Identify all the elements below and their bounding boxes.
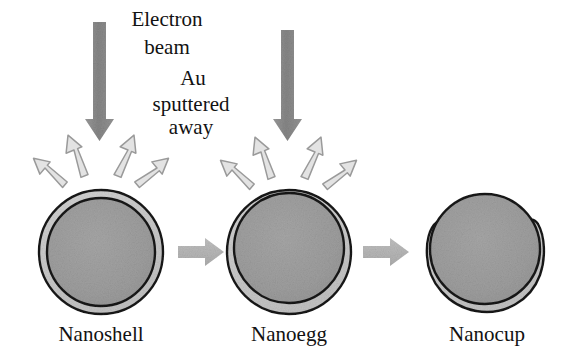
annotation-au-sputtered-away: Au sputtered away bbox=[153, 66, 230, 139]
figure-root: Electron beam Au sputtered away bbox=[0, 0, 584, 354]
electron-beam-label-line2: beam bbox=[144, 35, 189, 59]
particle-nanoshell: Nanoshell bbox=[39, 190, 163, 346]
sputter-arrow-icon bbox=[60, 132, 92, 179]
particle-label-nanocup: Nanocup bbox=[449, 322, 525, 346]
sputter-arrows-nanoegg bbox=[215, 134, 361, 193]
annotation-electron-beam: Electron beam bbox=[131, 7, 203, 59]
sputter-arrow-icon bbox=[28, 152, 70, 191]
diagram-canvas: Electron beam Au sputtered away bbox=[0, 0, 584, 354]
particle-label-nanoegg: Nanoegg bbox=[251, 322, 327, 346]
sputter-arrow-icon bbox=[297, 134, 329, 181]
sputter-arrow-icon bbox=[110, 132, 142, 179]
sputter-arrows-nanoshell bbox=[28, 132, 173, 191]
nanocup-core bbox=[430, 194, 540, 304]
particle-nanocup: Nanocup bbox=[427, 194, 544, 346]
sputter-arrow-icon bbox=[320, 154, 362, 193]
transition-arrow-1 bbox=[178, 238, 224, 266]
electron-beam-arrow-right bbox=[273, 30, 302, 141]
particle-label-nanoshell: Nanoshell bbox=[58, 322, 143, 346]
au-sputtered-label-line1: Au bbox=[180, 66, 206, 90]
nanoshell-core bbox=[47, 198, 155, 306]
electron-beam-label-line1: Electron bbox=[131, 7, 203, 31]
sputter-arrow-icon bbox=[215, 154, 257, 193]
electron-beam-arrow-left bbox=[85, 22, 114, 141]
au-sputtered-label-line3: away bbox=[169, 115, 214, 139]
au-sputtered-label-line2: sputtered bbox=[153, 92, 230, 116]
sputter-arrow-icon bbox=[132, 152, 174, 191]
sputter-arrow-icon bbox=[247, 134, 279, 181]
transition-arrow-2 bbox=[363, 238, 409, 266]
nanoegg-core bbox=[234, 193, 344, 303]
particle-nanoegg: Nanoegg bbox=[227, 190, 351, 346]
